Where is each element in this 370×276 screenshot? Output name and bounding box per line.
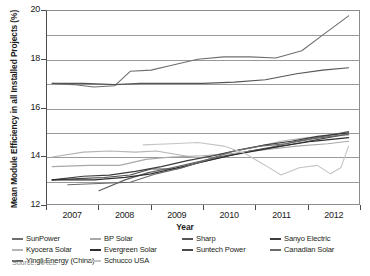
x-tick-mark	[360, 205, 361, 210]
legend-label: BP Solar	[104, 233, 133, 244]
legend-item[interactable]: Sharp	[182, 233, 270, 244]
legend-swatch	[12, 238, 23, 240]
x-axis-title: Year	[0, 222, 370, 232]
series-line	[52, 16, 348, 87]
x-tick-mark	[46, 205, 47, 210]
x-tick-mark	[308, 205, 309, 210]
legend-item[interactable]: Suntech Power	[182, 244, 270, 255]
chart-figure: Mean Module Efficiency in all Installed …	[0, 0, 370, 276]
legend-swatch	[12, 249, 23, 251]
series-line	[52, 68, 348, 85]
legend-swatch	[182, 238, 193, 240]
legend-swatch	[270, 238, 281, 240]
legend-label: SunPower	[26, 233, 60, 244]
legend-swatch	[90, 249, 101, 251]
x-tick-mark	[203, 205, 204, 210]
legend-label: Schucco USA	[104, 255, 149, 266]
legend-label: Sanyo Electric	[284, 233, 330, 244]
legend-item[interactable]: Kyocera Solar	[12, 244, 90, 255]
legend-swatch	[90, 260, 101, 262]
legend-swatch	[182, 249, 193, 251]
x-tick-mark	[255, 205, 256, 210]
x-tick-mark	[98, 205, 99, 210]
chart-legend: SunPowerBP SolarSharpSanyo ElectricKyoce…	[12, 233, 364, 266]
y-tick-label: 18	[0, 53, 40, 63]
legend-item[interactable]: BP Solar	[90, 233, 182, 244]
y-tick-label: 20	[0, 4, 40, 14]
series-lines	[47, 11, 359, 204]
legend-label: Evergreen Solar	[104, 244, 157, 255]
legend-swatch	[90, 238, 101, 240]
legend-item[interactable]: Sanyo Electric	[270, 233, 364, 244]
legend-label: Suntech Power	[196, 244, 246, 255]
x-tick-label: 2007	[45, 210, 99, 220]
x-tick-label: 2009	[150, 210, 204, 220]
x-tick-mark	[151, 205, 152, 210]
y-tick-label: 12	[0, 199, 40, 209]
legend-item[interactable]: Schucco USA	[90, 255, 182, 266]
legend-label: Kyocera Solar	[26, 244, 72, 255]
x-tick-label: 2008	[98, 210, 152, 220]
x-tick-label: 2010	[202, 210, 256, 220]
legend-item[interactable]: Evergreen Solar	[90, 244, 182, 255]
y-tick-label: 14	[0, 150, 40, 160]
legend-label: Sharp	[196, 233, 216, 244]
x-tick-label: 2011	[255, 210, 309, 220]
plot-area	[46, 10, 360, 205]
source-note: Source: NREL	[12, 258, 57, 267]
x-tick-label: 2012	[307, 210, 361, 220]
legend-item[interactable]: Canadian Solar	[270, 244, 364, 255]
legend-item[interactable]: SunPower	[12, 233, 90, 244]
legend-label: Canadian Solar	[284, 244, 334, 255]
legend-swatch	[270, 249, 281, 251]
y-tick-label: 16	[0, 102, 40, 112]
